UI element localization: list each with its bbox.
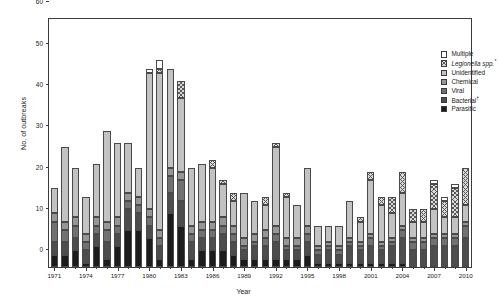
- bar-segment: [378, 246, 385, 250]
- bar-segment: [399, 193, 406, 226]
- bar: [61, 147, 68, 267]
- bar-segment: [209, 168, 216, 222]
- bar-segment: [399, 230, 406, 238]
- bar-segment: [251, 242, 258, 246]
- bar-segment: [61, 255, 68, 267]
- bar-segment: [367, 263, 374, 267]
- bar: [367, 172, 374, 267]
- x-axis-tick-label: 1983: [174, 272, 188, 279]
- bar-segment: [230, 201, 237, 226]
- bar-segment: [209, 230, 216, 238]
- bar: [209, 160, 216, 267]
- bar-segment: [420, 238, 427, 242]
- bar-segment: [103, 131, 110, 222]
- legend-swatch-icon: [441, 106, 447, 112]
- bar-segment: [335, 263, 342, 267]
- x-axis-tick-major: [54, 267, 55, 271]
- bar-segment: [430, 184, 437, 209]
- bar-segment: [177, 172, 184, 180]
- x-axis-tick-minor: [223, 267, 224, 269]
- bar: [378, 197, 385, 267]
- bar-segment: [272, 234, 279, 242]
- bar-segment: [430, 180, 437, 184]
- y-axis-tick-label: 60: [36, 0, 46, 5]
- bar-segment: [262, 230, 269, 238]
- bar-segment: [146, 209, 153, 217]
- x-axis-tick-label: 1974: [79, 272, 93, 279]
- legend-item: Parasitic: [441, 105, 496, 114]
- bar-segment: [146, 226, 153, 238]
- bar-segment: [51, 242, 58, 254]
- bar-segment: [346, 263, 353, 267]
- bar-segment: [61, 147, 68, 221]
- bar-segment: [188, 259, 195, 267]
- x-axis-tick-major: [466, 267, 467, 271]
- bar-segment: [335, 226, 342, 247]
- x-axis-tick-major: [371, 267, 372, 271]
- x-axis-tick-minor: [392, 267, 393, 269]
- y-axis-tick: 10: [36, 199, 49, 217]
- y-axis-tick-label: 20: [36, 164, 46, 171]
- x-axis-tick-major: [181, 267, 182, 271]
- bar-segment: [61, 222, 68, 230]
- bar-segment: [124, 143, 131, 193]
- bar-segment: [219, 250, 226, 267]
- bar-segment: [188, 234, 195, 242]
- bar-segment: [156, 259, 163, 267]
- legend-item: Unidentified: [441, 68, 496, 77]
- bar-segment: [167, 193, 174, 214]
- bar: [240, 193, 247, 267]
- chart-legend: MultipleLegionella spp.*UnidentifiedChem…: [438, 48, 499, 117]
- bar-segment: [388, 238, 395, 242]
- x-axis-tick-minor: [234, 267, 235, 269]
- bar: [451, 184, 458, 267]
- bar-segment: [188, 242, 195, 259]
- bar: [219, 180, 226, 267]
- bar-segment: [314, 246, 321, 250]
- x-axis-tick-major: [434, 267, 435, 271]
- y-axis-title: No. of outbreaks: [20, 64, 27, 184]
- bar-segment: [167, 168, 174, 176]
- x-axis-tick-minor: [255, 267, 256, 269]
- x-axis-title: Year: [0, 288, 487, 295]
- y-axis-tick-mark: [46, 43, 49, 44]
- x-axis-tick-label: 1971: [47, 272, 61, 279]
- bar-segment: [103, 230, 110, 242]
- bar: [82, 197, 89, 267]
- bar-segment: [198, 222, 205, 230]
- x-axis-tick-minor: [413, 267, 414, 269]
- bar-segment: [177, 201, 184, 226]
- bar-segment: [451, 217, 458, 234]
- legend-item: Viral: [441, 86, 496, 95]
- x-axis-tick-minor: [265, 267, 266, 269]
- bar-segment: [367, 238, 374, 246]
- bar-segment: [251, 234, 258, 242]
- bar-segment: [156, 69, 163, 73]
- bar-segment: [293, 205, 300, 238]
- y-axis-tick-label: 50: [36, 40, 46, 47]
- bar-segment: [314, 250, 321, 254]
- bar: [135, 168, 142, 267]
- bar-segment: [409, 238, 416, 242]
- bar-segment: [230, 242, 237, 254]
- bar-segment: [167, 176, 174, 193]
- bar-segment: [103, 222, 110, 230]
- bar-segment: [346, 201, 353, 238]
- legend-swatch-icon: [441, 88, 447, 94]
- bar-segment: [188, 226, 195, 234]
- bar: [304, 168, 311, 267]
- bar-segment: [262, 259, 269, 267]
- x-axis-tick-major: [149, 267, 150, 271]
- bar: [114, 143, 121, 267]
- bar-segment: [420, 250, 427, 267]
- y-axis-tick-mark: [46, 167, 49, 168]
- bar-segment: [167, 69, 174, 168]
- bar: [314, 226, 321, 267]
- bar-segment: [462, 205, 469, 222]
- bar-segment: [198, 230, 205, 238]
- plot-area: 0102030405060 19711974197719801983198619…: [48, 18, 472, 268]
- bar-segment: [240, 259, 247, 267]
- bar-segment: [51, 255, 58, 267]
- x-axis-tick-minor: [455, 267, 456, 269]
- y-axis-tick: 0: [39, 240, 49, 258]
